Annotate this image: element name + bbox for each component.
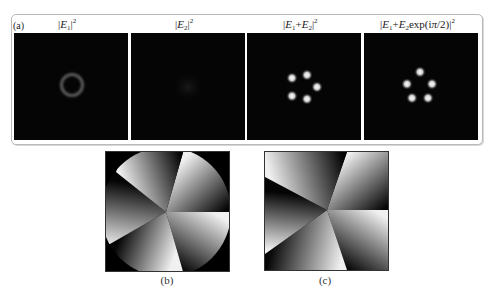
caption-c: (c) — [310, 274, 340, 286]
ring-mode-shape — [62, 75, 83, 96]
title-e2-intensity: |E2|2 — [175, 17, 193, 32]
title-phase-shifted-sum-intensity: |E1+E2exp(iπ/2)|2 — [380, 17, 455, 32]
title-e1-intensity: |E1|2 — [58, 17, 76, 32]
five-lobe-pattern — [286, 69, 323, 105]
e2-intensity-image — [131, 33, 245, 140]
e1-intensity-image — [14, 33, 128, 140]
phase-map-circular — [105, 151, 230, 272]
phase-shifted-sum-intensity-image — [364, 33, 478, 140]
phase-map-square — [264, 151, 389, 271]
faint-mode-shape — [172, 71, 204, 103]
title-sum-intensity: |E1+E2|2 — [283, 17, 318, 32]
sum-intensity-image — [247, 33, 361, 140]
five-lobe-pattern — [401, 66, 438, 104]
panel-a-label: (a) — [13, 20, 24, 31]
caption-b: (b) — [152, 274, 182, 286]
